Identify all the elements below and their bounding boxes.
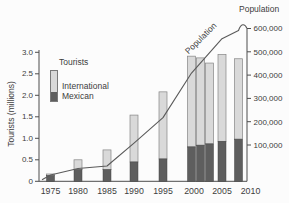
left-axis-tick-label: 3.0: [22, 48, 34, 57]
bar-2002-international: [206, 63, 214, 144]
bar-2005-mexican: [218, 141, 226, 181]
bar-1980-mexican: [74, 170, 82, 182]
chart-figure: 3.02.52.01.51.00.50600,000500,000400,000…: [0, 0, 289, 203]
left-axis-tick-label: 2.0: [22, 91, 34, 100]
bar-1990-international: [130, 115, 138, 162]
right-axis-tick-label: 200,000: [254, 118, 283, 127]
left-axis-tick-label: 1.5: [22, 112, 34, 121]
bar-2002-mexican: [206, 144, 214, 181]
population-line: [42, 25, 247, 180]
bar-2008-international: [235, 59, 243, 139]
right-axis-tick-label: 600,000: [254, 24, 283, 33]
x-axis-tick-label: 1975: [41, 186, 61, 196]
right-axis-tick-label: 300,000: [254, 94, 283, 103]
x-axis-tick-label: 1995: [153, 186, 173, 196]
bar-1995-mexican: [159, 159, 167, 181]
right-axis-tick-label: 400,000: [254, 71, 283, 80]
left-axis-tick-label: 1.0: [22, 134, 34, 143]
bar-1990-mexican: [130, 162, 138, 181]
legend-title: Tourists: [59, 57, 109, 67]
x-axis-tick-label: 2010: [241, 186, 261, 196]
bar-1985-mexican: [103, 170, 111, 182]
legend-swatch-bar: [50, 70, 58, 102]
left-axis-title: Tourists (millions): [6, 71, 16, 157]
bar-2001-international: [197, 58, 205, 145]
bar-2001-mexican: [197, 145, 205, 181]
legend: Tourists International Mexican: [50, 57, 109, 102]
bar-1995-international: [159, 92, 167, 159]
mexican-swatch: [51, 92, 57, 101]
x-axis-tick-label: 1985: [97, 186, 117, 196]
chart-svg: 3.02.52.01.51.00.50600,000500,000400,000…: [0, 0, 289, 203]
right-axis-tick-label: 100,000: [254, 141, 283, 150]
left-axis-tick-label: 0: [29, 177, 34, 186]
left-axis-tick-label: 2.5: [22, 69, 34, 78]
legend-item-international: International: [62, 70, 109, 91]
x-axis-tick-label: 2000: [184, 186, 204, 196]
bar-2008-mexican: [235, 139, 243, 181]
legend-item-mexican: Mexican: [62, 91, 109, 101]
right-axis-title: Population: [239, 4, 279, 14]
bar-2005-international: [218, 54, 226, 141]
right-axis-tick-label: 500,000: [254, 48, 283, 57]
x-axis-tick-label: 1990: [124, 186, 144, 196]
bar-2000-mexican: [188, 147, 196, 181]
left-axis-tick-label: 0.5: [22, 155, 34, 164]
x-axis-tick-label: 2005: [212, 186, 232, 196]
international-swatch: [51, 71, 57, 92]
x-axis-tick-label: 1980: [68, 186, 88, 196]
